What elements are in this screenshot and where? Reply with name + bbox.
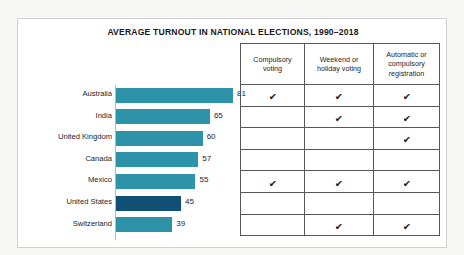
- policy-cell-empty: [241, 128, 305, 150]
- policy-cell-empty: [305, 128, 374, 150]
- bar-value-label: 39: [176, 219, 185, 228]
- check-icon: ✔: [268, 179, 276, 189]
- bar-value-label: 57: [202, 154, 211, 163]
- bar-category-label: Mexico: [88, 175, 112, 184]
- bar: [116, 217, 172, 232]
- voting-policy-matrix: Compulsory voting Weekend or holiday vot…: [240, 43, 440, 236]
- policy-cell-empty: [305, 192, 374, 214]
- check-icon: ✔: [335, 222, 343, 232]
- bar-category-label: India: [96, 111, 112, 120]
- bar-row: India65: [31, 107, 246, 129]
- column-header-automatic-or-compulsory-registration: Automatic or compulsory registration: [374, 44, 440, 85]
- table-row: ✔: [241, 128, 440, 150]
- policy-cell-empty: [374, 149, 440, 171]
- check-icon: ✔: [335, 179, 343, 189]
- policy-cell-checked: ✔: [374, 128, 440, 150]
- table-row: [241, 192, 440, 214]
- bar-category-label: Switzerland: [73, 219, 112, 228]
- policy-cell-empty: [241, 106, 305, 128]
- chart-card: AVERAGE TURNOUT IN NATIONAL ELECTIONS, 1…: [17, 18, 447, 248]
- infographic-page: AVERAGE TURNOUT IN NATIONAL ELECTIONS, 1…: [0, 0, 464, 255]
- policy-cell-checked: ✔: [241, 85, 305, 107]
- column-header-weekend-or-holiday-voting: Weekend or holiday voting: [305, 44, 374, 85]
- policy-cell-empty: [374, 192, 440, 214]
- table-row: [241, 149, 440, 171]
- policy-cell-empty: [241, 192, 305, 214]
- policy-cell-checked: ✔: [305, 106, 374, 128]
- column-header-compulsory-voting: Compulsory voting: [241, 44, 305, 85]
- bar-row: Canada57: [31, 150, 246, 172]
- bar-value-label: 45: [185, 197, 194, 206]
- bar: [116, 174, 195, 189]
- policy-cell-empty: [241, 149, 305, 171]
- bar-category-label: Canada: [85, 154, 112, 163]
- policy-cell-empty: [241, 214, 305, 236]
- matrix-body: ✔✔✔✔✔✔✔✔✔✔✔: [241, 85, 440, 236]
- bar-value-label: 55: [199, 175, 208, 184]
- bar-row: United Kingdom60: [31, 128, 246, 150]
- bar-value-label: 65: [214, 111, 223, 120]
- check-icon: ✔: [335, 92, 343, 102]
- bar-value-label: 60: [207, 132, 216, 141]
- check-icon: ✔: [335, 114, 343, 124]
- bar-category-label: United States: [66, 197, 112, 206]
- check-icon: ✔: [402, 179, 410, 189]
- policy-cell-checked: ✔: [241, 171, 305, 193]
- matrix-header: Compulsory voting Weekend or holiday vot…: [241, 44, 440, 85]
- policy-cell-checked: ✔: [374, 214, 440, 236]
- bar: [116, 109, 210, 124]
- bar: [116, 152, 198, 167]
- bar-chart: Australia81India65United Kingdom60Canada…: [31, 85, 246, 240]
- bar-row: Mexico55: [31, 171, 246, 193]
- check-icon: ✔: [402, 222, 410, 232]
- table-row: ✔✔: [241, 106, 440, 128]
- policy-cell-checked: ✔: [374, 85, 440, 107]
- policy-cell-empty: [305, 149, 374, 171]
- bar: [116, 196, 181, 211]
- bar-row: United States45: [31, 193, 246, 215]
- check-icon: ✔: [402, 92, 410, 102]
- matrix-header-row: Compulsory voting Weekend or holiday vot…: [241, 44, 440, 85]
- policy-cell-checked: ✔: [305, 171, 374, 193]
- policy-cell-checked: ✔: [374, 171, 440, 193]
- check-icon: ✔: [268, 92, 276, 102]
- bar-category-label: Australia: [82, 89, 112, 98]
- bar-category-label: United Kingdom: [58, 132, 112, 141]
- table-row: ✔✔✔: [241, 85, 440, 107]
- check-icon: ✔: [402, 135, 410, 145]
- policy-cell-checked: ✔: [305, 85, 374, 107]
- bar: [116, 131, 203, 146]
- page-title: AVERAGE TURNOUT IN NATIONAL ELECTIONS, 1…: [18, 27, 448, 37]
- check-icon: ✔: [402, 114, 410, 124]
- policy-cell-checked: ✔: [374, 106, 440, 128]
- bar: [116, 88, 233, 103]
- bar-row: Switzerland39: [31, 215, 246, 237]
- table-row: ✔✔: [241, 214, 440, 236]
- table-row: ✔✔✔: [241, 171, 440, 193]
- bar-row: Australia81: [31, 85, 246, 107]
- policy-cell-checked: ✔: [305, 214, 374, 236]
